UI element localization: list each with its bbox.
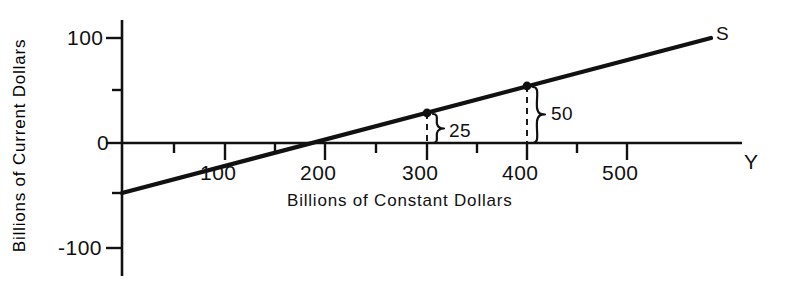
annotation-label-50: 50 — [551, 103, 573, 125]
y-axis-title: Billions of Current Dollars — [10, 39, 30, 252]
x-tick-label-200: 200 — [300, 161, 337, 185]
chart-plot-svg — [0, 0, 796, 291]
x-tick-marks — [174, 143, 627, 160]
x-tick-label-300: 300 — [402, 161, 439, 185]
chart-figure: 100 0 -100 100 200 300 400 500 Y S 25 50… — [0, 0, 796, 291]
y-tick-label-minus-100: -100 — [58, 236, 102, 260]
series-label-s: S — [716, 23, 729, 45]
x-axis-symbol: Y — [744, 150, 759, 174]
x-tick-label-400: 400 — [502, 161, 539, 185]
y-tick-label-100: 100 — [67, 26, 104, 50]
annotation-label-25: 25 — [449, 120, 471, 142]
drop-lines — [427, 86, 527, 145]
y-tick-label-0: 0 — [97, 131, 109, 155]
brace-25-path — [433, 114, 444, 143]
x-axis-title: Billions of Constant Dollars — [287, 191, 513, 211]
axis-group — [122, 20, 742, 276]
x-tick-label-100: 100 — [200, 161, 237, 185]
y-axis-title-wrapper: Billions of Current Dollars — [0, 0, 40, 291]
x-tick-label-500: 500 — [602, 161, 639, 185]
brace-50-path — [533, 87, 545, 143]
